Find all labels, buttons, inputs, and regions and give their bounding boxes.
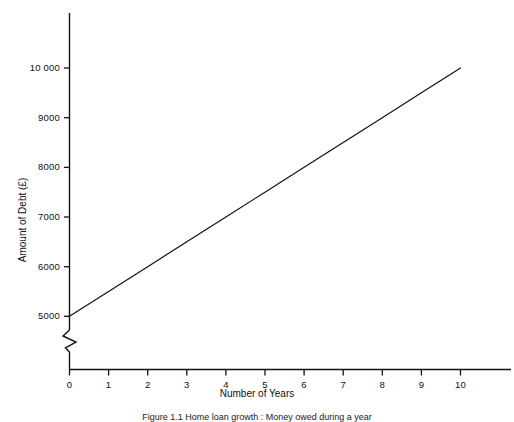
y-tick-label-10000: 10 000: [10, 62, 60, 73]
figure-root: 5000 6000 7000 8000 9000 10 000 0 1 2 3 …: [0, 0, 514, 422]
y-axis-title: Amount of Debt (£): [17, 178, 28, 262]
y-axis-ticks: [64, 68, 70, 316]
y-axis-title-wrap: Amount of Debt (£): [14, 150, 30, 290]
data-series-line: [70, 68, 461, 316]
x-axis-title: Number of Years: [0, 388, 514, 399]
x-axis-ticks: [70, 370, 461, 376]
y-tick-label-5000: 5000: [16, 310, 60, 321]
y-tick-label-9000: 9000: [16, 112, 60, 123]
zigzag-break-icon: [63, 330, 76, 352]
chart-plot-area: [0, 0, 514, 422]
figure-caption: Figure 1.1 Home loan growth : Money owed…: [0, 412, 514, 422]
